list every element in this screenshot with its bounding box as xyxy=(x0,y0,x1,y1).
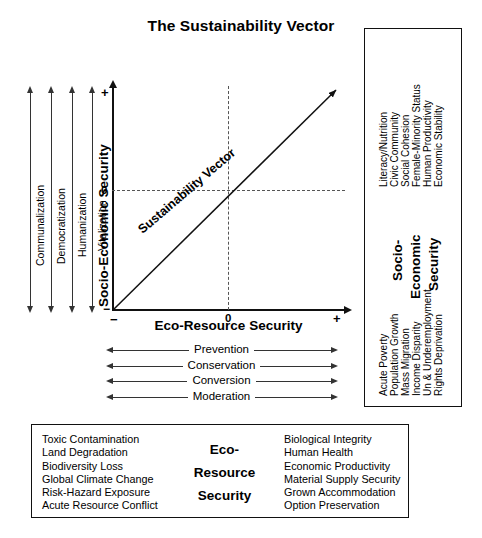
bottom-arrow-label-conservation: Conservation xyxy=(112,359,331,371)
eco-positive-item-3: Material Supply Security xyxy=(284,473,400,486)
socio-negative-item-5: Rights Deprivation xyxy=(434,314,444,396)
eco-positive-item-2: Economic Productivity xyxy=(284,460,400,473)
arrow-shaft-vitalization xyxy=(92,92,93,307)
eco-negative-item-1: Land Degradation xyxy=(42,446,158,459)
arrow-head-right-conservation xyxy=(331,363,338,369)
bottom-arrow-label-prevention: Prevention xyxy=(112,343,331,355)
bottom-arrow-label-conversion: Conversion xyxy=(112,374,331,386)
socio-negative-item-3: Income Disparity xyxy=(412,322,422,396)
eco-positive-item-1: Human Health xyxy=(284,446,400,459)
arrow-head-up-communalization xyxy=(27,86,33,93)
socio-negative-item-1: Population Growth xyxy=(390,314,400,396)
eco-negative-items: Toxic Contamination Land Degradation Bio… xyxy=(42,433,158,513)
arrow-head-right-prevention xyxy=(331,347,338,353)
eco-positive-item-5: Option Preservation xyxy=(284,499,400,512)
socio-positive-item-2: Social Cohesion xyxy=(401,115,411,187)
socio-panel-heading-line-1: Economic xyxy=(409,234,423,299)
arrow-head-right-moderation xyxy=(331,394,338,400)
y-axis-tick-plus: + xyxy=(101,86,109,99)
arrow-head-down-vitalization xyxy=(89,306,95,313)
x-axis-label: Eco-Resource Security xyxy=(112,318,345,333)
eco-negative-item-0: Toxic Contamination xyxy=(42,433,158,446)
socio-panel-heading-line-2: Security xyxy=(427,238,441,291)
arrow-shaft-communalization xyxy=(30,92,31,307)
arrow-head-down-communalization xyxy=(27,306,33,313)
left-arrow-label-democratization: Democratization xyxy=(55,186,67,266)
socio-positive-item-4: Human Productivity xyxy=(423,100,433,187)
eco-negative-item-5: Acute Resource Conflict xyxy=(42,499,158,512)
eco-negative-item-3: Global Climate Change xyxy=(42,473,158,486)
arrow-head-up-vitalization xyxy=(89,86,95,93)
eco-positive-items: Biological Integrity Human Health Econom… xyxy=(284,433,400,513)
socio-negative-item-4: Un & Underemployment xyxy=(423,289,433,396)
eco-panel-heading-line-0: Eco- xyxy=(172,438,277,461)
arrow-head-down-humanization xyxy=(69,306,75,313)
eco-panel-heading-line-1: Resource xyxy=(172,461,277,484)
arrow-shaft-democratization xyxy=(51,92,52,307)
arrow-head-right-conversion xyxy=(331,378,338,384)
eco-negative-item-2: Biodiversity Loss xyxy=(42,460,158,473)
socio-positive-item-0: Literacy/Nutrition xyxy=(379,112,389,187)
eco-positive-item-0: Biological Integrity xyxy=(284,433,400,446)
socio-negative-item-0: Acute Poverty xyxy=(379,334,389,396)
arrow-head-down-democratization xyxy=(48,306,54,313)
eco-positive-item-4: Grown Accommodation xyxy=(284,486,400,499)
socio-panel-heading-line-0: Socio- xyxy=(391,240,405,281)
socio-positive-item-3: Female-Minority Status xyxy=(412,84,422,187)
socio-positive-item-5: Economic Stability xyxy=(434,105,444,187)
bottom-arrow-label-moderation: Moderation xyxy=(112,390,331,402)
arrow-shaft-humanization xyxy=(72,92,73,307)
arrow-head-up-democratization xyxy=(48,86,54,93)
arrow-head-up-humanization xyxy=(69,86,75,93)
socio-negative-item-2: Mass Migration xyxy=(401,328,411,396)
left-arrow-label-humanization: Humanization xyxy=(76,191,88,259)
eco-panel-heading-line-2: Security xyxy=(172,484,277,507)
eco-negative-item-4: Risk-Hazard Exposure xyxy=(42,486,158,499)
socio-positive-item-1: Civic Community xyxy=(390,112,400,187)
socio-economic-security-panel: Literacy/Nutrition Civic Community Socia… xyxy=(364,28,462,407)
sustainability-vector-figure: The Sustainability Vector Communalizatio… xyxy=(0,0,482,538)
vector-svg xyxy=(112,80,352,315)
eco-resource-security-panel: Toxic Contamination Land Degradation Bio… xyxy=(31,424,409,518)
left-arrow-label-communalization: Communalization xyxy=(34,183,46,268)
eco-panel-heading: Eco- Resource Security xyxy=(172,438,277,507)
y-axis-label: Socio-Economic Security xyxy=(96,144,111,307)
sustainability-vector-arrow xyxy=(112,80,352,315)
